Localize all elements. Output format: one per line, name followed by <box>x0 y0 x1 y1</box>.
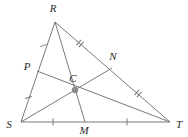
label-R: R <box>49 2 57 14</box>
label-N: N <box>108 50 117 62</box>
label-T: T <box>176 118 183 130</box>
tick-mark-RP <box>40 44 47 46</box>
median-T-to-P-line <box>37 71 170 122</box>
label-M: M <box>78 124 89 136</box>
medians <box>21 22 170 122</box>
label-S: S <box>6 118 12 130</box>
geometry-diagram-container: R P N C S M T <box>0 0 188 137</box>
side-RS-line <box>21 22 55 122</box>
triangle-rst-figure: R P N C S M T <box>0 0 188 137</box>
centroid-point-C <box>72 87 78 93</box>
tick-mark-PS <box>25 96 32 98</box>
label-P: P <box>23 60 31 72</box>
triangle-sides <box>21 22 170 122</box>
label-C: C <box>69 72 77 84</box>
